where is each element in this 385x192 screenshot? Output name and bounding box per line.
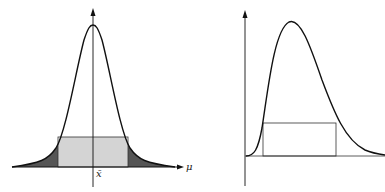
xbar-label: x̄ [96,168,102,179]
tail-shading [0,100,188,167]
diagram-canvas: μ x̄ [0,0,385,192]
left-figure: μ x̄ [0,8,193,187]
right-y-axis-arrow-icon [243,10,248,18]
right-figure [243,10,385,186]
mu-label: μ [186,161,193,172]
x-axis-arrow-icon [177,165,184,170]
skewed-curve [246,21,385,156]
y-axis-arrow-icon [91,8,96,16]
right-rectangle [263,123,336,156]
